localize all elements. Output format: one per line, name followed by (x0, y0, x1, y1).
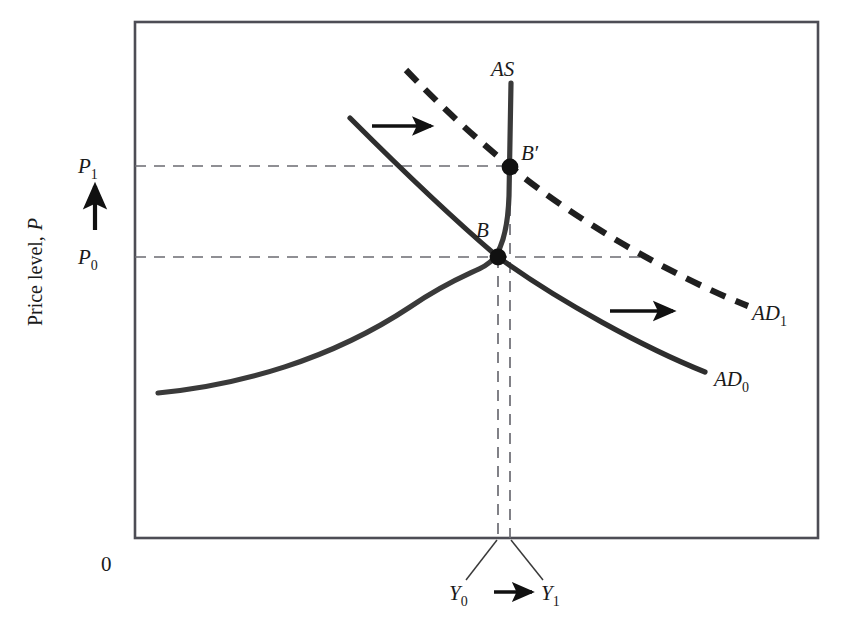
as-curve (158, 83, 511, 393)
plot-frame (135, 22, 818, 538)
output-leader-lines (466, 540, 543, 580)
y1-leader-line (511, 540, 543, 580)
y0-tick-label: Y0 (449, 581, 468, 609)
svg-text:Price level,P: Price level,P (24, 218, 46, 326)
ad0-curve-label: AD0 (712, 367, 749, 395)
figure-container: Price level,P 0 P1 P0 Y0 Y1 AS AD0 AD1 B… (0, 0, 849, 633)
equilibrium-point-b-prime (502, 159, 519, 176)
p0-tick-label: P0 (77, 245, 98, 273)
point-b-label: B (476, 218, 489, 242)
ad1-curve-label: AD1 (750, 301, 787, 329)
point-b-prime-label: B′ (521, 141, 539, 165)
y1-tick-label: Y1 (541, 581, 560, 609)
p1-tick-label: P1 (77, 154, 98, 182)
output-tick-labels: Y0 Y1 (449, 581, 560, 609)
price-guide-lines (135, 166, 641, 257)
ad-as-diagram: Price level,P 0 P1 P0 Y0 Y1 AS AD0 AD1 B… (0, 0, 849, 633)
ad1-curve (406, 70, 748, 306)
equilibrium-point-b (490, 249, 507, 266)
y-axis-label: Price level,P (24, 218, 46, 326)
as-curve-label: AS (489, 57, 515, 81)
y-axis-label-text: Price level, (24, 236, 46, 326)
y0-leader-line (466, 540, 497, 580)
y-axis-label-variable: P (24, 218, 46, 231)
origin-label: 0 (101, 552, 112, 576)
